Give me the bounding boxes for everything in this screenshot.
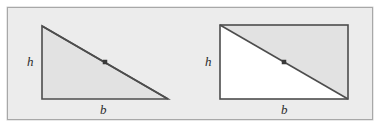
triangle-height-label: h <box>27 55 34 68</box>
rectangle-height-label: h <box>205 55 212 68</box>
rectangle-base-label: b <box>281 103 288 116</box>
figure-frame <box>7 7 373 120</box>
triangle-base-label: b <box>100 103 107 116</box>
figure-root: h b h b <box>0 0 392 130</box>
